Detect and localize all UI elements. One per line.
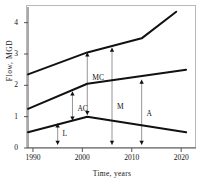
y-tick-label: 1 <box>6 112 18 121</box>
x-axis-label: Time, years <box>62 169 162 178</box>
annotation-label-m: M <box>117 102 124 111</box>
x-tick-label: 2010 <box>115 153 149 162</box>
y-tick-label: 2 <box>6 80 18 89</box>
x-tick-label: 2000 <box>65 153 99 162</box>
chart-figure: Flow, MGD Time, years 01234 199020002010… <box>0 0 209 184</box>
annotation-label-a: A <box>147 109 152 118</box>
x-tick-label: 1990 <box>16 153 50 162</box>
annotation-arrows <box>55 48 143 145</box>
y-tick-label: 3 <box>6 49 18 58</box>
x-axis-ticks <box>33 148 181 152</box>
annotation-label-l: L <box>63 129 68 138</box>
y-tick-label: 0 <box>6 143 18 152</box>
annotation-label-ac: AC <box>77 104 87 113</box>
data-curves <box>28 12 186 133</box>
y-axis-ticks <box>24 23 28 148</box>
y-tick-label: 4 <box>6 18 18 27</box>
annotation-label-mc: MC <box>92 73 104 82</box>
x-tick-label: 2020 <box>164 153 198 162</box>
